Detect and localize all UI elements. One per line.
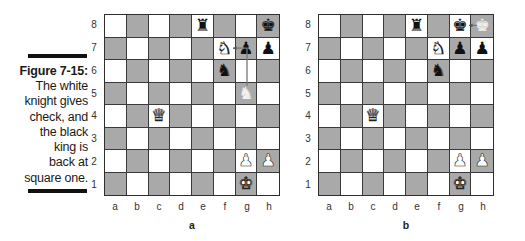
square-d2[interactable] bbox=[384, 150, 406, 173]
square-d5[interactable] bbox=[170, 83, 192, 106]
square-e1[interactable] bbox=[406, 173, 428, 196]
square-g4[interactable] bbox=[450, 105, 472, 128]
square-f7[interactable]: ♞ bbox=[214, 38, 236, 61]
square-h6[interactable] bbox=[257, 60, 279, 83]
square-f3[interactable] bbox=[428, 128, 450, 151]
square-e8[interactable]: ♜ bbox=[192, 15, 214, 38]
square-d4[interactable] bbox=[170, 105, 192, 128]
square-g3[interactable] bbox=[236, 128, 258, 151]
square-f1[interactable] bbox=[214, 173, 236, 196]
square-d3[interactable] bbox=[170, 128, 192, 151]
square-a4[interactable] bbox=[319, 105, 341, 128]
square-b2[interactable] bbox=[127, 150, 149, 173]
square-b4[interactable] bbox=[127, 105, 149, 128]
square-g3[interactable] bbox=[450, 128, 472, 151]
square-a7[interactable] bbox=[319, 38, 341, 61]
square-a5[interactable] bbox=[105, 83, 127, 106]
square-e6[interactable] bbox=[406, 60, 428, 83]
square-a6[interactable] bbox=[319, 60, 341, 83]
white-pawn-icon[interactable]: ♟ bbox=[475, 152, 490, 169]
square-c6[interactable] bbox=[149, 60, 171, 83]
square-e1[interactable] bbox=[192, 173, 214, 196]
square-g5[interactable] bbox=[450, 83, 472, 106]
black-rook-icon[interactable]: ♜ bbox=[195, 17, 210, 34]
square-c7[interactable] bbox=[149, 38, 171, 61]
black-knight-icon[interactable]: ♞ bbox=[431, 62, 446, 79]
square-d7[interactable] bbox=[384, 38, 406, 61]
black-pawn-icon[interactable]: ♟ bbox=[452, 40, 467, 57]
black-knight-icon[interactable]: ♞ bbox=[217, 62, 232, 79]
square-h8[interactable]: ♚ bbox=[257, 15, 279, 38]
square-d7[interactable] bbox=[170, 38, 192, 61]
square-d6[interactable] bbox=[384, 60, 406, 83]
square-h3[interactable] bbox=[471, 128, 493, 151]
square-b2[interactable] bbox=[341, 150, 363, 173]
square-f5[interactable] bbox=[214, 83, 236, 106]
square-g2[interactable]: ♟ bbox=[236, 150, 258, 173]
square-c2[interactable] bbox=[363, 150, 385, 173]
square-e4[interactable] bbox=[406, 105, 428, 128]
square-g5[interactable]: ♞ bbox=[236, 83, 258, 106]
square-f2[interactable] bbox=[214, 150, 236, 173]
square-g6[interactable] bbox=[236, 60, 258, 83]
square-a2[interactable] bbox=[319, 150, 341, 173]
black-rook-icon[interactable]: ♜ bbox=[409, 17, 424, 34]
square-a1[interactable] bbox=[319, 173, 341, 196]
square-b1[interactable] bbox=[127, 173, 149, 196]
square-h4[interactable] bbox=[257, 105, 279, 128]
black-king-icon[interactable]: ♚ bbox=[261, 17, 276, 34]
square-e4[interactable] bbox=[192, 105, 214, 128]
square-d5[interactable] bbox=[384, 83, 406, 106]
square-d8[interactable] bbox=[384, 15, 406, 38]
square-e7[interactable] bbox=[192, 38, 214, 61]
square-d3[interactable] bbox=[384, 128, 406, 151]
square-h2[interactable]: ♟ bbox=[257, 150, 279, 173]
square-b8[interactable] bbox=[341, 15, 363, 38]
square-e2[interactable] bbox=[406, 150, 428, 173]
square-a1[interactable] bbox=[105, 173, 127, 196]
ghost-knight-icon[interactable]: ♞ bbox=[238, 85, 253, 102]
square-c1[interactable] bbox=[149, 173, 171, 196]
square-a6[interactable] bbox=[105, 60, 127, 83]
square-f5[interactable] bbox=[428, 83, 450, 106]
square-c2[interactable] bbox=[149, 150, 171, 173]
square-d2[interactable] bbox=[170, 150, 192, 173]
square-b7[interactable] bbox=[341, 38, 363, 61]
square-a5[interactable] bbox=[319, 83, 341, 106]
square-c7[interactable] bbox=[363, 38, 385, 61]
square-h5[interactable] bbox=[257, 83, 279, 106]
white-queen-icon[interactable]: ♛ bbox=[151, 107, 166, 124]
square-b5[interactable] bbox=[341, 83, 363, 106]
square-h6[interactable] bbox=[471, 60, 493, 83]
square-b7[interactable] bbox=[127, 38, 149, 61]
square-c4[interactable]: ♛ bbox=[149, 105, 171, 128]
square-c5[interactable] bbox=[149, 83, 171, 106]
square-h4[interactable] bbox=[471, 105, 493, 128]
square-g4[interactable] bbox=[236, 105, 258, 128]
square-e7[interactable] bbox=[406, 38, 428, 61]
black-pawn-icon[interactable]: ♟ bbox=[238, 40, 253, 57]
square-h1[interactable] bbox=[471, 173, 493, 196]
square-d1[interactable] bbox=[170, 173, 192, 196]
square-h8[interactable]: ♚ bbox=[471, 15, 493, 38]
square-g8[interactable]: ♚ bbox=[450, 15, 472, 38]
square-h2[interactable]: ♟ bbox=[471, 150, 493, 173]
square-f2[interactable] bbox=[428, 150, 450, 173]
square-c1[interactable] bbox=[363, 173, 385, 196]
square-a8[interactable] bbox=[105, 15, 127, 38]
square-a2[interactable] bbox=[105, 150, 127, 173]
black-pawn-icon[interactable]: ♟ bbox=[475, 40, 490, 57]
square-g1[interactable]: ♚ bbox=[236, 173, 258, 196]
square-f6[interactable]: ♞ bbox=[428, 60, 450, 83]
square-g6[interactable] bbox=[450, 60, 472, 83]
white-knight-icon[interactable]: ♞ bbox=[431, 40, 446, 57]
square-f7[interactable]: ♞ bbox=[428, 38, 450, 61]
white-knight-icon[interactable]: ♞ bbox=[217, 40, 232, 57]
black-pawn-icon[interactable]: ♟ bbox=[261, 40, 276, 57]
square-b6[interactable] bbox=[341, 60, 363, 83]
square-h7[interactable]: ♟ bbox=[257, 38, 279, 61]
square-f4[interactable] bbox=[214, 105, 236, 128]
square-a4[interactable] bbox=[105, 105, 127, 128]
square-e8[interactable]: ♜ bbox=[406, 15, 428, 38]
square-b8[interactable] bbox=[127, 15, 149, 38]
